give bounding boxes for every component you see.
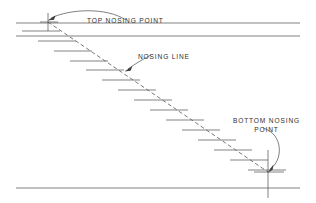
diagram-canvas: [0, 0, 316, 203]
bottom-nosing-point-marker: [254, 150, 284, 198]
leader-curve-line: [263, 128, 279, 169]
label-bottom-nosing-point-line1: BOTTOM NOSING: [233, 117, 300, 124]
bottom-nosing-leader: [263, 128, 279, 173]
label-top-nosing-point: TOP NOSING POINT: [87, 16, 164, 25]
label-bottom-nosing-point-line2: POINT: [233, 125, 300, 134]
label-bottom-nosing-point: BOTTOM NOSING POINT: [233, 116, 300, 134]
nosing-line-dashed: [48, 22, 268, 172]
floor-lines-group: [16, 23, 300, 188]
stair-nosing-diagram: TOP NOSING POINT NOSING LINE BOTTOM NOSI…: [0, 0, 316, 203]
label-nosing-line: NOSING LINE: [138, 52, 190, 61]
